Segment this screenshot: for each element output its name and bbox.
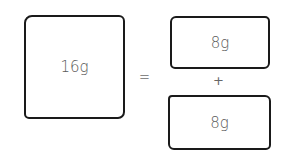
whole-label: 16g [60, 58, 88, 76]
part-box-bottom: 8g [168, 95, 271, 150]
equals-sign: = [139, 70, 150, 83]
plus-sign: + [213, 74, 224, 87]
part-box-top: 8g [170, 16, 270, 69]
part-label-bottom: 8g [210, 114, 229, 132]
whole-box: 16g [24, 15, 125, 119]
part-label-top: 8g [211, 34, 230, 52]
